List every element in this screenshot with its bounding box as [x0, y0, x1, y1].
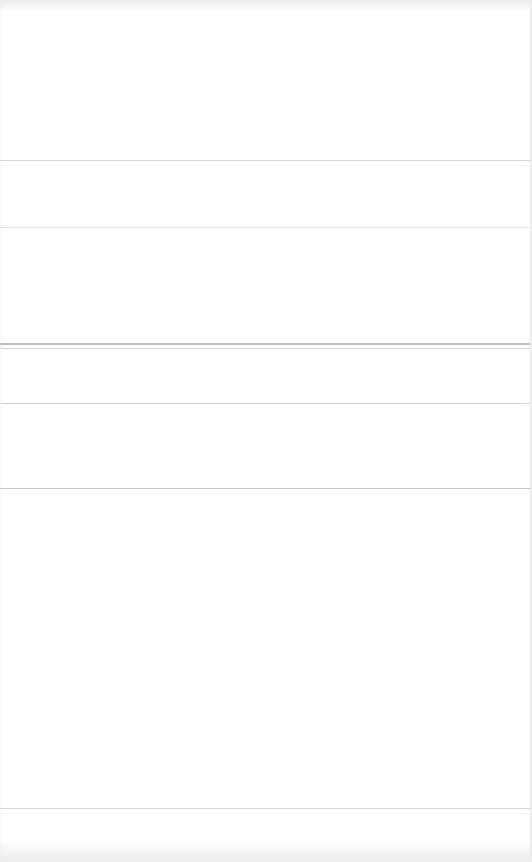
- blank-page: [0, 0, 532, 862]
- section-5: [0, 404, 530, 488]
- section-6: [0, 489, 530, 808]
- section-1: [0, 0, 530, 160]
- section-2: [0, 161, 530, 227]
- section-4: [0, 349, 530, 403]
- bottom-edge-shade: [0, 840, 532, 862]
- section-3: [0, 228, 530, 344]
- divider-3-thick: [0, 343, 530, 345]
